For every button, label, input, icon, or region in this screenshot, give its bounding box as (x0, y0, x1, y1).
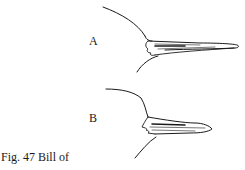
bill-a-drawing (103, 7, 238, 72)
bill-illustrations (0, 0, 245, 170)
figure-caption-cutoff: … … … (40, 165, 82, 170)
label-b: B (89, 111, 97, 126)
label-a: A (89, 34, 98, 49)
bill-b-drawing (106, 89, 212, 158)
figure-caption: Fig. 47 Bill of (1, 150, 69, 165)
